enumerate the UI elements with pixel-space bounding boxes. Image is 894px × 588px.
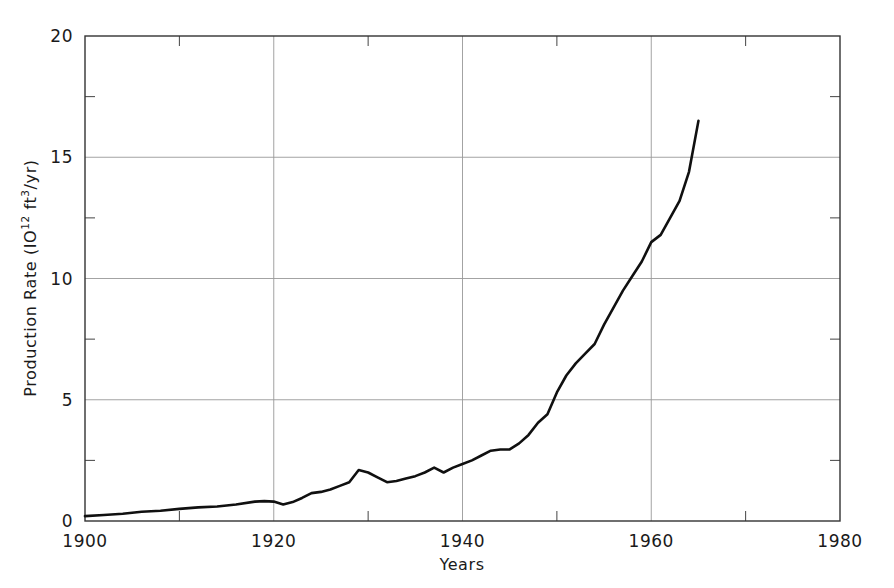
y-axis-title-prefix: Production Rate (IO [21, 230, 40, 397]
production-rate-line-chart: 19001920194019601980 05101520 Years Prod… [0, 0, 894, 588]
x-tick-label: 1900 [62, 531, 107, 551]
y-tick-label: 5 [62, 390, 73, 410]
x-tick-label: 1920 [251, 531, 296, 551]
y-axis-title-exponent-12: 12 [19, 215, 31, 230]
x-axis-title: Years [438, 555, 484, 574]
y-axis-title-middle: ft [21, 197, 40, 216]
y-tick-label: 20 [50, 26, 73, 46]
y-tick-label: 10 [50, 269, 73, 289]
y-axis-title-exponent-3: 3 [19, 189, 31, 196]
y-tick-label: 0 [62, 511, 73, 531]
x-tick-label: 1940 [440, 531, 485, 551]
chart-background [0, 0, 894, 588]
y-axis-title-suffix: /yr) [21, 159, 40, 189]
x-tick-label: 1960 [629, 531, 674, 551]
chart-container: 19001920194019601980 05101520 Years Prod… [0, 0, 894, 588]
x-tick-label: 1980 [817, 531, 862, 551]
y-tick-label: 15 [50, 147, 73, 167]
